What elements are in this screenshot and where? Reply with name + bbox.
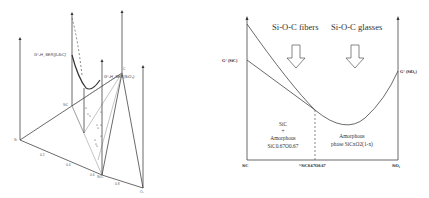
region-left-line-4: SiC0.67O0.67 [268, 143, 299, 149]
gibbs-curve-amorphous [247, 24, 398, 125]
label-o2: O₂ [140, 190, 144, 194]
region-left-line-3: Amorphous [270, 135, 295, 141]
label-sic-corner: SiC [63, 103, 69, 107]
tie-line-3 [72, 106, 84, 133]
down-arrow-icon-glasses [346, 45, 364, 68]
base-edge-c-o2 [122, 73, 143, 188]
tick-label: 0.8 [115, 182, 120, 186]
arrow-icon [101, 59, 104, 62]
x-label-sio2: SiO₂ [392, 163, 401, 168]
region-right-line-2: phase SiCxO2(1-x) [331, 141, 373, 148]
x-label-sic: SiC [242, 163, 249, 168]
label-gibbs-sio2: G°-H_SER(SiO₂) [104, 74, 135, 79]
y-label-sio2: G° (SiO₂) [400, 69, 417, 74]
label-gibbs-sic: G°-H_SER(β-SiC) [34, 52, 67, 57]
tick-label: 0.6 [90, 173, 95, 177]
right-gibbs-diagram: Si-O-C fibers Si-O-C glasses G° (SiC) G°… [222, 16, 417, 168]
arrow-icon [246, 16, 249, 20]
label-sio2-corner: SiO₂ [97, 175, 104, 179]
region-right-line-1: Amorphous [339, 133, 364, 139]
diagram-canvas: G°-H_SER(β-SiC) G°-H_SER(SiO₂) Si SiO₂ O… [0, 0, 429, 198]
gibbs-curve-dashed [72, 18, 82, 75]
arrow-icon [142, 65, 145, 68]
tick-label: 0.4 [66, 163, 71, 167]
y-label-sic: G° (SiC) [222, 58, 238, 63]
label-si: Si [14, 138, 17, 142]
arrow-icon [71, 12, 74, 15]
tick-label: 0.2 [40, 153, 45, 157]
x-label-mid: ~SiC0.67O0.67 [299, 163, 326, 168]
label-c: C [123, 67, 126, 71]
region-left-line-2: + [281, 128, 284, 134]
region-left-line-1: SiC [279, 121, 287, 127]
base-edge-si-sio2 [20, 140, 102, 175]
base-edge-sio2-o2 [102, 175, 143, 188]
left-3d-gibbs-diagram: G°-H_SER(β-SiC) G°-H_SER(SiO₂) Si SiO₂ O… [14, 10, 145, 194]
base-edge-c-sio2 [102, 73, 122, 175]
down-arrow-icon-fibers [287, 45, 305, 68]
common-tangent-line [247, 60, 315, 110]
arrow-icon [121, 10, 124, 13]
arrow-icon [397, 16, 400, 20]
gibbs-curve-sic [72, 55, 100, 89]
title-glasses: Si-O-C glasses [331, 22, 383, 32]
arrow-icon [19, 37, 22, 40]
title-fibers: Si-O-C fibers [272, 22, 319, 32]
